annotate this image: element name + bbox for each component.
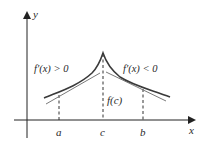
diagram-canvas: y x a c b f′(x) > 0 f′(x) < 0 f(c) (0, 0, 212, 146)
x-axis-label: x (188, 124, 194, 136)
y-axis-label: y (32, 8, 38, 20)
max-value-label: f(c) (107, 94, 123, 107)
point-label-a: a (56, 126, 62, 138)
right-derivative-label: f′(x) < 0 (123, 63, 158, 75)
point-label-c: c (100, 126, 105, 138)
tangent-line-a (46, 73, 100, 104)
function-curve (44, 53, 170, 98)
point-label-b: b (140, 126, 146, 138)
left-derivative-label: f′(x) > 0 (34, 63, 69, 75)
